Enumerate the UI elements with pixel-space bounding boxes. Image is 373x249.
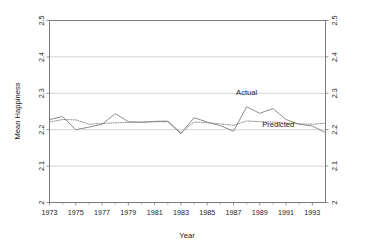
y-tick-label-right: 2 <box>330 201 339 205</box>
chart-container: 1973197519771979198119831985198719891991… <box>0 0 373 249</box>
y-axis-title: Mean Happiness <box>13 82 22 139</box>
x-tick-label: 1979 <box>120 208 136 217</box>
x-tick-label: 1987 <box>226 208 242 217</box>
y-tick-label-left: 2.3 <box>37 88 46 98</box>
y-tick-label-left: 2.5 <box>37 16 46 26</box>
x-tick-label: 1973 <box>42 208 58 217</box>
x-tick-label: 1991 <box>278 208 294 217</box>
x-tick-label: 1983 <box>173 208 189 217</box>
x-tick-label: 1977 <box>94 208 110 217</box>
x-tick-label: 1975 <box>68 208 84 217</box>
x-tick-label: 1981 <box>147 208 163 217</box>
y-tick-label-right: 2.4 <box>330 52 339 62</box>
y-tick-label-right: 2.1 <box>330 161 339 171</box>
y-tick-label-left: 2.1 <box>37 161 46 171</box>
y-tick-label-right: 2.3 <box>330 88 339 98</box>
x-tick-label: 1989 <box>252 208 268 217</box>
series-annotation-predicted: Predicted <box>262 120 294 129</box>
line-chart: 1973197519771979198119831985198719891991… <box>0 0 373 249</box>
y-tick-label-right: 2.5 <box>330 16 339 26</box>
x-tick-label: 1985 <box>199 208 215 217</box>
x-axis-title: Year <box>179 231 195 240</box>
y-tick-label-left: 2.2 <box>37 125 46 135</box>
y-tick-label-left: 2 <box>37 201 46 205</box>
series-annotation-actual: Actual <box>236 88 257 97</box>
x-tick-label: 1993 <box>304 208 320 217</box>
y-tick-label-right: 2.2 <box>330 125 339 135</box>
y-tick-label-left: 2.4 <box>37 52 46 62</box>
